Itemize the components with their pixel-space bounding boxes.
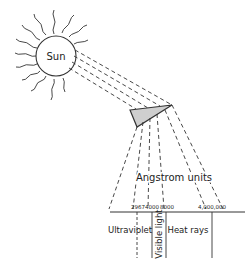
tick-4000: 4000 [145,204,159,210]
label-heat-rays: Heat rays [167,225,209,235]
label-visible-light: Visible light [154,209,164,259]
tick-2967: 2967 [131,204,145,210]
label-ultraviolet: Ultraviolet [108,225,153,235]
axis-title-text: Angstrom units [136,172,212,183]
dispersed-beams [109,105,223,209]
incoming-beams [69,50,172,109]
tick-8000: 8000 [160,204,174,210]
sun-label: Sun [46,51,65,62]
prism [130,105,172,127]
tick-4000000: 4,000,000 [198,204,226,210]
spectrum-diagram: Sun Angstrom units Angstrom units 2967 4… [0,0,245,259]
